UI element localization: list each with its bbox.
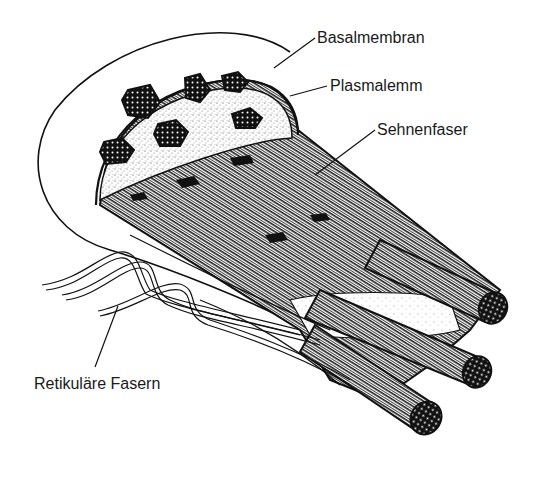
- label-basalmembran: Basalmembran: [317, 30, 425, 46]
- label-retikulaere-fasern: Retikuläre Fasern: [34, 376, 160, 392]
- label-sehnenfaser: Sehnenfaser: [377, 122, 468, 138]
- tendon-illustration: [0, 0, 540, 487]
- label-plasmalemm: Plasmalemm: [330, 78, 422, 94]
